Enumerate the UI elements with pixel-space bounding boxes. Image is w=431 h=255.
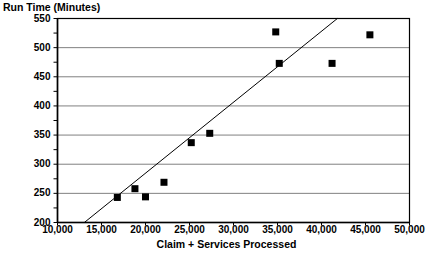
gridlines-group (58, 48, 410, 194)
axis-frame (58, 19, 410, 223)
data-point-8 (329, 60, 336, 67)
y-tick-label-250: 250 (11, 187, 51, 198)
data-point-3 (160, 179, 167, 186)
x-axis-title: Claim + Services Processed (0, 238, 431, 250)
scatter-chart: Run Time (Minutes) 200250300350400450500… (0, 0, 431, 255)
x-axis-title-text: Claim + Services Processed (157, 238, 297, 250)
y-tick-label-550: 550 (11, 13, 51, 24)
data-point-1 (131, 185, 138, 192)
data-point-6 (272, 28, 279, 35)
y-tick-label-500: 500 (11, 42, 51, 53)
plot-area (0, 0, 431, 255)
data-point-4 (188, 139, 195, 146)
x-tick-label-50000: 50,000 (380, 224, 431, 235)
y-tick-label-300: 300 (11, 158, 51, 169)
y-tick-label-350: 350 (11, 129, 51, 140)
plot-frame (58, 19, 410, 223)
trend-line (84, 19, 337, 223)
data-point-2 (142, 193, 149, 200)
data-point-9 (366, 31, 373, 38)
data-point-5 (206, 130, 213, 137)
data-points-group (114, 28, 374, 201)
data-point-0 (114, 194, 121, 201)
y-tick-label-400: 400 (11, 100, 51, 111)
y-tick-label-450: 450 (11, 71, 51, 82)
data-point-7 (276, 60, 283, 67)
